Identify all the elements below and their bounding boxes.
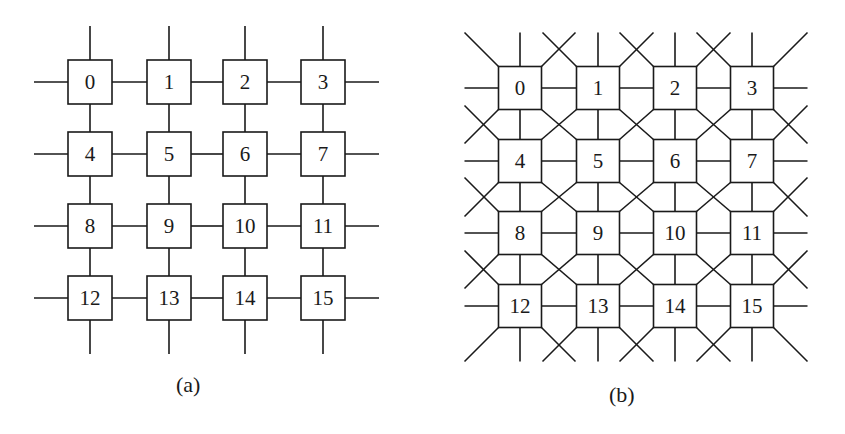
node-label: 7 — [747, 149, 758, 173]
panel-a: 0123456789101112131415 — [34, 26, 379, 354]
node-b-10: 10 — [654, 212, 697, 255]
node-label: 11 — [742, 221, 762, 245]
node-label: 2 — [670, 76, 681, 100]
node-a-5: 5 — [147, 132, 191, 176]
node-label: 1 — [593, 76, 604, 100]
node-b-1: 1 — [577, 67, 620, 110]
node-a-2: 2 — [223, 60, 267, 104]
node-label: 9 — [593, 221, 604, 245]
diagonal-link — [465, 328, 499, 362]
diagonal-link — [774, 255, 808, 289]
diagonal-link — [774, 251, 808, 285]
node-a-7: 7 — [301, 132, 345, 176]
node-label: 6 — [240, 142, 251, 166]
node-label: 14 — [665, 294, 687, 318]
node-b-12: 12 — [499, 285, 542, 328]
node-a-15: 15 — [301, 276, 345, 320]
node-a-6: 6 — [223, 132, 267, 176]
node-b-6: 6 — [654, 140, 697, 183]
node-label: 5 — [164, 142, 175, 166]
node-b-2: 2 — [654, 67, 697, 110]
node-label: 13 — [159, 286, 180, 310]
node-a-1: 1 — [147, 60, 191, 104]
caption-a: (a) — [176, 372, 200, 398]
node-label: 14 — [235, 286, 257, 310]
panel-b: 0123456789101112131415 — [465, 33, 808, 362]
node-label: 6 — [670, 149, 681, 173]
node-label: 8 — [85, 214, 96, 238]
diagonal-link — [465, 255, 499, 289]
node-label: 10 — [665, 221, 686, 245]
node-label: 0 — [515, 76, 526, 100]
node-a-0: 0 — [68, 60, 112, 104]
node-b-13: 13 — [577, 285, 620, 328]
diagonal-link — [774, 183, 808, 217]
node-a-14: 14 — [223, 276, 267, 320]
node-b-15: 15 — [731, 285, 774, 328]
node-a-4: 4 — [68, 132, 112, 176]
node-a-10: 10 — [223, 204, 267, 248]
node-label: 5 — [593, 149, 604, 173]
diagonal-link — [774, 328, 808, 362]
diagonal-link — [465, 178, 499, 212]
node-label: 2 — [240, 70, 251, 94]
node-label: 13 — [588, 294, 609, 318]
node-b-9: 9 — [577, 212, 620, 255]
node-label: 3 — [318, 70, 329, 94]
node-label: 4 — [515, 149, 526, 173]
node-b-11: 11 — [731, 212, 774, 255]
node-label: 12 — [80, 286, 101, 310]
node-label: 15 — [313, 286, 334, 310]
caption-b: (b) — [609, 382, 635, 408]
node-b-3: 3 — [731, 67, 774, 110]
node-b-7: 7 — [731, 140, 774, 183]
diagonal-link — [465, 183, 499, 217]
node-label: 7 — [318, 142, 329, 166]
diagonal-link — [774, 178, 808, 212]
node-b-4: 4 — [499, 140, 542, 183]
diagonal-link — [774, 106, 808, 140]
node-label: 15 — [742, 294, 763, 318]
node-b-5: 5 — [577, 140, 620, 183]
node-b-14: 14 — [654, 285, 697, 328]
node-label: 10 — [235, 214, 256, 238]
node-label: 12 — [510, 294, 531, 318]
node-label: 3 — [747, 76, 758, 100]
node-label: 4 — [85, 142, 96, 166]
node-a-13: 13 — [147, 276, 191, 320]
diagonal-link — [465, 110, 499, 144]
diagonal-link — [774, 110, 808, 144]
node-b-8: 8 — [499, 212, 542, 255]
node-label: 8 — [515, 221, 526, 245]
node-a-12: 12 — [68, 276, 112, 320]
node-a-9: 9 — [147, 204, 191, 248]
node-a-3: 3 — [301, 60, 345, 104]
node-a-11: 11 — [301, 204, 345, 248]
diagonal-link — [465, 251, 499, 285]
node-label: 9 — [164, 214, 175, 238]
diagonal-link — [465, 33, 499, 67]
mesh-diagram: 0123456789101112131415012345678910111213… — [0, 0, 845, 434]
diagonal-link — [465, 106, 499, 140]
node-label: 11 — [313, 214, 333, 238]
diagonal-link — [774, 33, 808, 67]
node-b-0: 0 — [499, 67, 542, 110]
node-label: 1 — [164, 70, 175, 94]
node-a-8: 8 — [68, 204, 112, 248]
node-label: 0 — [85, 70, 96, 94]
